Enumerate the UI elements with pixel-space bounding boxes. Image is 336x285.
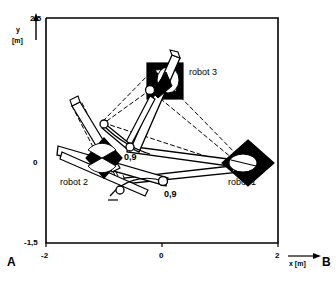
corner-label-a: A <box>7 256 16 268</box>
x-axis-arrow <box>288 253 321 259</box>
robot-1-label: robot 1 <box>228 178 256 187</box>
robot-workspace-plot <box>0 0 336 285</box>
y-axis-name: y <box>16 26 20 33</box>
corner-label-b: B <box>322 256 331 268</box>
x-tick-zero: 0 <box>159 252 163 260</box>
dimension-label-upper: 0,9 <box>124 153 137 162</box>
robot-3-assembly <box>126 50 183 152</box>
x-axis-name: x [m] <box>289 260 306 267</box>
figure-root: y [m] 2,5 0 -1,5 -2 0 2 x [m] A B robot … <box>0 0 336 285</box>
y-tick-zero: 0 <box>33 159 37 167</box>
robot-3-label: robot 3 <box>189 68 217 77</box>
plot-frame <box>46 18 278 243</box>
x-tick-min: -2 <box>41 252 48 260</box>
x-tick-max: 2 <box>275 252 279 260</box>
y-tick-max: 2,5 <box>30 15 41 23</box>
y-axis-unit: [m] <box>12 37 23 44</box>
robot-2-label: robot 2 <box>60 178 88 187</box>
dimension-label-lower: 0,9 <box>164 190 177 199</box>
y-tick-min: -1,5 <box>24 239 38 247</box>
